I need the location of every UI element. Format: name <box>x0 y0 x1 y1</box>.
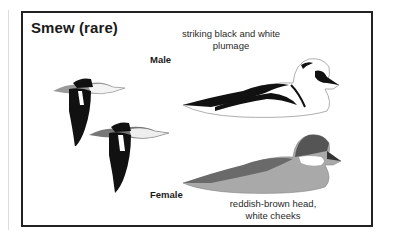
male-smew-illustration <box>181 53 351 123</box>
male-note-line2: plumage <box>171 40 291 52</box>
male-label: Male <box>150 54 171 65</box>
male-note-line1: striking black and white <box>171 28 291 40</box>
female-note-line2: white cheeks <box>213 210 333 222</box>
female-smew-illustration <box>181 131 351 197</box>
page-margin-rule <box>8 10 9 230</box>
male-note: striking black and white plumage <box>171 28 291 52</box>
smew-panel: Smew (rare) striking black and white plu… <box>21 11 373 227</box>
panel-title: Smew (rare) <box>31 19 118 36</box>
female-note-line1: reddish-brown head, <box>213 198 333 210</box>
flying-smew-illustration-2 <box>87 115 177 193</box>
female-note: reddish-brown head, white cheeks <box>213 198 333 222</box>
